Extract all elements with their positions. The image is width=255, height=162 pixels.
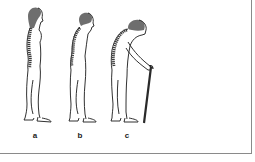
panel-label-a: a bbox=[33, 131, 37, 140]
figure-b-stooped bbox=[69, 13, 96, 122]
panel-label-b: b bbox=[78, 131, 83, 140]
figure-c-cane bbox=[111, 20, 153, 123]
panel-label-c: c bbox=[125, 131, 129, 140]
figure-a-upright bbox=[24, 7, 51, 122]
